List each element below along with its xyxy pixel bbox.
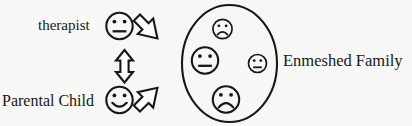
arrow-therapist-to-family-icon bbox=[134, 15, 158, 39]
parental-child-label: Parental Child bbox=[2, 93, 94, 109]
therapist-face bbox=[106, 13, 132, 39]
arrow-vertical-double-icon bbox=[116, 50, 133, 83]
family-member-left-face bbox=[192, 47, 218, 73]
parental-child-face bbox=[106, 87, 132, 113]
enmeshed-family-label: Enmeshed Family bbox=[283, 53, 403, 70]
family-member-top-face bbox=[213, 19, 232, 38]
diagram-canvas: therapist Parental Child Enmeshed Family bbox=[0, 0, 412, 126]
family-member-right-face bbox=[249, 55, 267, 73]
arrow-parental-child-to-family-icon bbox=[134, 88, 158, 112]
family-member-bottom-face bbox=[213, 86, 239, 112]
therapist-label: therapist bbox=[38, 18, 90, 33]
